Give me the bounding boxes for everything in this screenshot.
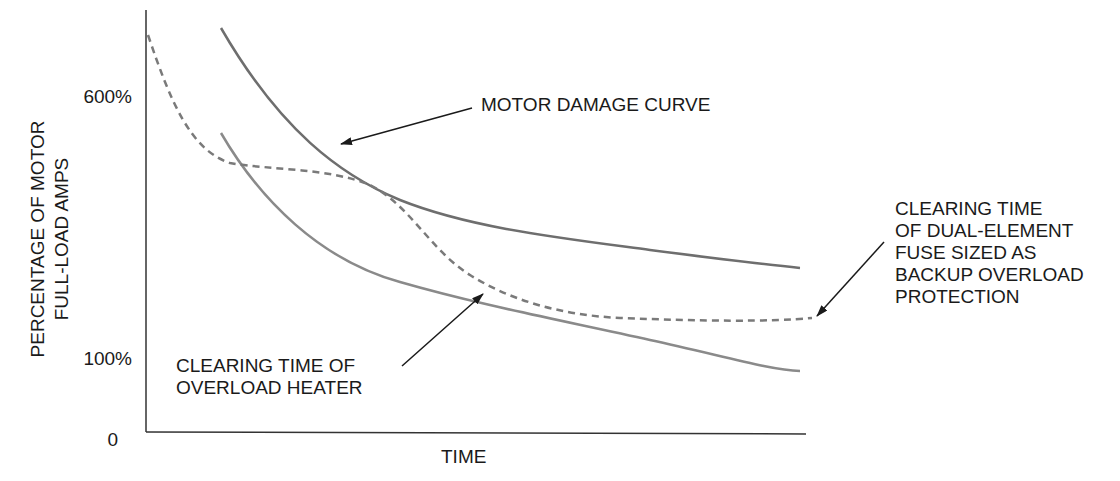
- heater-label-line2: OVERLOAD HEATER: [176, 377, 363, 399]
- heater-label: CLEARING TIME OF OVERLOAD HEATER: [176, 355, 363, 399]
- x-axis-label: TIME: [441, 446, 486, 468]
- motor-damage-arrow: [341, 108, 472, 144]
- fuse-arrow: [817, 242, 884, 316]
- y-tick-100: 100%: [72, 348, 132, 370]
- y-tick-0: 0: [58, 429, 118, 451]
- fuse-label-line5: PROTECTION: [895, 286, 1084, 308]
- fuse-label-line3: FUSE SIZED AS: [895, 242, 1084, 264]
- heater-arrow: [402, 294, 483, 366]
- fuse-label-line2: OF DUAL-ELEMENT: [895, 220, 1084, 242]
- heater-label-line1: CLEARING TIME OF: [176, 355, 363, 377]
- fuse-label: CLEARING TIME OF DUAL-ELEMENT FUSE SIZED…: [895, 198, 1084, 308]
- motor-damage-label: MOTOR DAMAGE CURVE: [481, 94, 710, 116]
- motor-damage-curve: [221, 28, 800, 268]
- overload-heater-curve: [221, 133, 800, 371]
- x-axis: [146, 432, 806, 434]
- fuse-label-line4: BACKUP OVERLOAD: [895, 264, 1084, 286]
- dual-element-fuse-curve: [148, 35, 812, 321]
- y-axis-label: PERCENTAGE OF MOTOR FULL-LOAD AMPS: [26, 79, 74, 399]
- y-tick-600: 600%: [72, 86, 132, 108]
- y-axis-label-line2: FULL-LOAD AMPS: [50, 79, 74, 399]
- time-current-diagram: PERCENTAGE OF MOTOR FULL-LOAD AMPS 600% …: [0, 0, 1120, 481]
- y-axis-label-line1: PERCENTAGE OF MOTOR: [26, 79, 50, 399]
- fuse-label-line1: CLEARING TIME: [895, 198, 1084, 220]
